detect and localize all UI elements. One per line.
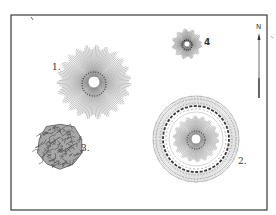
plan-frame [11, 15, 267, 210]
north-arrow-icon [258, 33, 261, 98]
site-plan [0, 0, 276, 215]
mound-2-ringed [152, 95, 239, 182]
mound-4-radiating [172, 29, 202, 59]
cairn-3-stone-pattern [32, 124, 84, 169]
north-label: N [256, 24, 261, 31]
mound-1-radiating [57, 45, 131, 119]
corner-mark [31, 17, 33, 20]
label-feature-1: 1. [52, 63, 61, 72]
label-feature-3: 3. [81, 144, 90, 153]
edge-mark [271, 36, 273, 38]
label-feature-2: 2. [238, 157, 247, 166]
label-feature-4: 4 [204, 38, 210, 47]
